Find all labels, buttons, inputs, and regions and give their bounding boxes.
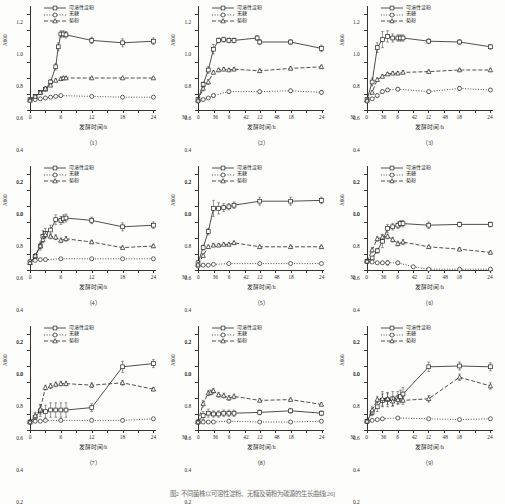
x-tick-label: 6 — [228, 114, 231, 120]
chart-legend: 可溶性淀粉无糖菊粉 — [381, 5, 431, 24]
x-tick: 42 — [306, 110, 307, 113]
legend-entry: 菊粉 — [44, 178, 94, 184]
x-tick: 18 — [76, 430, 77, 433]
legend-label: 无糖 — [237, 331, 247, 337]
y-axis-label: A600 — [2, 194, 8, 206]
x-tick: 0 — [30, 110, 31, 113]
panel-number: （4） — [30, 298, 156, 307]
y-tick-label: 0.6 — [16, 275, 23, 281]
x-tick-label: 0 — [29, 274, 32, 280]
legend-entry: 菊粉 — [44, 338, 94, 344]
x-tick-label: 0 — [365, 434, 368, 440]
legend-label: 菊粉 — [237, 338, 247, 344]
x-tick-label: 0 — [197, 274, 200, 280]
y-axis-label: A600 — [2, 354, 8, 366]
x-tick-label: 0 — [197, 434, 200, 440]
x-tick: 30 — [444, 270, 445, 273]
x-tick-label: 6 — [228, 434, 231, 440]
y-tick-label: 0.8 — [353, 243, 360, 249]
y-tick-label: 0.8 — [185, 243, 192, 249]
x-tick-label: 24 — [319, 114, 324, 120]
x-tick: 12 — [229, 110, 230, 113]
y-tick-label: 0.6 — [16, 115, 23, 121]
y-tick-label: 0.4 — [353, 147, 360, 153]
chart-panel-9: A6000.00.20.40.60.81.01.2061218243036424… — [337, 320, 505, 480]
legend-marker-circle-icon — [381, 172, 403, 178]
legend-marker-triangle-icon — [212, 178, 234, 184]
x-tick-label: 6 — [228, 274, 231, 280]
x-tick-label: 0 — [365, 114, 368, 120]
x-tick: 24 — [92, 270, 93, 273]
x-tick-label: 6 — [396, 114, 399, 120]
y-tick-label: 0.6 — [185, 115, 192, 121]
x-tick: 30 — [107, 430, 108, 433]
x-tick: 24 — [92, 110, 93, 113]
x-tick-label: 12 — [89, 434, 94, 440]
legend-label: 无糖 — [69, 171, 79, 177]
legend-marker-triangle-icon — [212, 338, 234, 344]
x-tick: 48 — [490, 110, 491, 113]
legend-label: 菊粉 — [406, 178, 416, 184]
chart-legend: 可溶性淀粉无糖菊粉 — [212, 5, 262, 24]
x-tick: 12 — [61, 110, 62, 113]
legend-marker-circle-icon — [381, 332, 403, 338]
chart-panel-3: A6000.00.20.40.60.81.01.2061218243036424… — [337, 0, 505, 160]
x-axis-label: 发酵时间/h — [367, 442, 493, 451]
x-tick: 36 — [123, 270, 124, 273]
x-tick-label: 0 — [29, 114, 32, 120]
y-tick-label: 1.0 — [185, 211, 192, 217]
legend-marker-square-icon — [44, 5, 66, 11]
y-tick-label: 0.2 — [16, 499, 23, 504]
legend-marker-square-icon — [212, 165, 234, 171]
y-tick-label: 1.0 — [16, 371, 23, 377]
x-tick-label: 12 — [257, 434, 262, 440]
y-axis-label: A600 — [339, 354, 345, 366]
x-tick: 42 — [475, 270, 476, 273]
x-axis-label: 发酵时间/h — [367, 282, 493, 291]
x-tick-label: 6 — [396, 434, 399, 440]
x-tick-label: 24 — [151, 274, 156, 280]
chart-panel-6: A6000.00.20.40.60.81.01.2061218243036424… — [337, 160, 505, 320]
x-tick: 12 — [229, 270, 230, 273]
x-tick: 30 — [107, 270, 108, 273]
x-tick-label: 6 — [59, 274, 62, 280]
y-axis-label: A600 — [170, 34, 176, 46]
x-tick-label: 24 — [151, 114, 156, 120]
y-axis-label: A600 — [339, 194, 345, 206]
x-tick-label: 24 — [487, 114, 492, 120]
x-tick: 18 — [245, 430, 246, 433]
y-tick-label: 1.2 — [16, 339, 23, 345]
x-tick: 42 — [475, 110, 476, 113]
legend-entry: 菊粉 — [381, 18, 431, 24]
y-tick-label: 0.6 — [16, 435, 23, 441]
legend-marker-circle-icon — [44, 332, 66, 338]
y-tick-label: 1.0 — [16, 51, 23, 57]
x-tick: 6 — [382, 110, 383, 113]
chart-legend: 可溶性淀粉无糖菊粉 — [381, 165, 431, 184]
x-tick-label: 24 — [487, 274, 492, 280]
x-tick: 12 — [61, 270, 62, 273]
y-tick-label: 1.0 — [185, 371, 192, 377]
legend-label: 无糖 — [69, 331, 79, 337]
x-tick: 6 — [45, 110, 46, 113]
x-tick: 36 — [291, 110, 292, 113]
legend-entry: 菊粉 — [212, 338, 262, 344]
y-tick-label: 1.2 — [353, 19, 360, 25]
chart-legend: 可溶性淀粉无糖菊粉 — [212, 325, 262, 344]
panel-number: （9） — [367, 458, 493, 467]
x-tick: 30 — [275, 430, 276, 433]
legend-marker-triangle-icon — [44, 18, 66, 24]
legend-marker-triangle-icon — [381, 18, 403, 24]
chart-panel-5: A6000.00.20.40.60.81.01.2061218243036424… — [168, 160, 336, 320]
y-tick-label: 0.4 — [16, 147, 23, 153]
x-tick: 30 — [275, 270, 276, 273]
x-tick: 6 — [45, 270, 46, 273]
chart-panel-4: A6000.00.20.40.60.81.01.2061218243036424… — [0, 160, 168, 320]
panel-number: （1） — [30, 138, 156, 147]
legend-label: 菊粉 — [406, 18, 416, 24]
x-tick: 0 — [367, 430, 368, 433]
x-tick: 48 — [322, 430, 323, 433]
x-tick: 6 — [382, 430, 383, 433]
x-axis-label: 发酵时间/h — [30, 282, 156, 291]
y-tick-label: 0.4 — [185, 147, 192, 153]
